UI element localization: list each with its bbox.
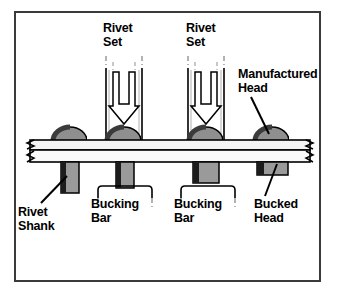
- label-rivet-shank: Rivet Shank: [18, 206, 55, 233]
- riveting-diagram: Rivet Set Rivet Set Manufactured Head Ri…: [0, 0, 338, 296]
- lower-sheet: [30, 150, 310, 162]
- rivet-shank-1: [61, 162, 79, 193]
- label-bucking-bar-2: Bucking Bar: [174, 198, 222, 225]
- diagram-canvas: [0, 0, 338, 296]
- label-manufactured-head: Manufactured Head: [238, 68, 318, 95]
- shank-edge: [116, 162, 121, 188]
- label-rivet-set-1: Rivet Set: [103, 22, 133, 49]
- bucked-head-edge: [257, 162, 264, 175]
- sheet-assembly: [27, 140, 313, 162]
- bucked-head-shape: [257, 162, 288, 175]
- shank-edge: [193, 162, 199, 183]
- upper-sheet: [30, 140, 310, 150]
- force-arrow-icon: [191, 72, 221, 124]
- label-rivet-set-2: Rivet Set: [186, 22, 216, 49]
- label-bucked-head: Bucked Head: [254, 198, 298, 225]
- label-bucking-bar-1: Bucking Bar: [91, 198, 139, 225]
- rivet-shank-2: [116, 162, 134, 188]
- force-arrow-icon: [109, 72, 139, 124]
- rivet-shank-3: [193, 162, 219, 183]
